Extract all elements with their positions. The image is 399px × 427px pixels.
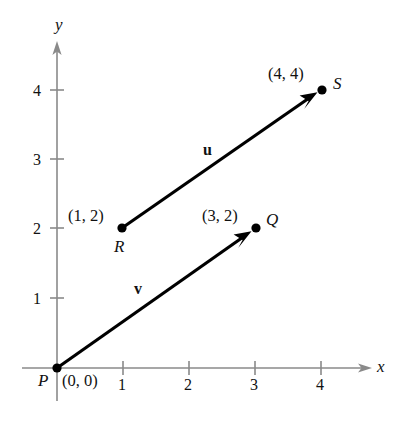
y-axis-label: y [55,16,63,33]
vector-label-v: v [134,281,142,297]
point-label-Q: Q [266,211,278,228]
point-label-R: R [114,238,124,255]
x-tick-label-1: 1 [118,377,126,393]
vector-diagram-figure: y x 1 2 3 4 1 2 3 4 P (0, 0) (1, 2) R (3… [0,0,399,427]
point-dot-R [117,223,126,232]
y-tick-label-2: 2 [33,221,41,237]
point-coord-Q: (3, 2) [202,208,238,225]
coordinate-plane [0,0,399,427]
point-label-S: S [333,75,342,92]
vector-label-u: u [203,142,212,158]
y-tick-label-3: 3 [33,152,41,168]
point-dots [52,85,326,372]
y-tick-label-4: 4 [33,83,41,99]
y-tick-label-1: 1 [33,291,41,307]
x-axis-label: x [377,358,385,375]
point-coord-R: (1, 2) [68,208,104,225]
point-coord-P: (0, 0) [62,373,98,390]
vector-v-arrowhead [234,231,252,248]
x-tick-label-2: 2 [184,377,192,393]
x-tick-label-3: 3 [250,377,258,393]
vector-v [57,231,252,368]
x-tick-label-4: 4 [316,377,324,393]
point-coord-S: (4, 4) [268,66,304,83]
vector-u-arrowhead [300,92,318,109]
point-dot-P [52,363,61,372]
point-dot-Q [251,223,260,232]
point-dot-S [317,85,326,94]
point-label-P: P [38,372,48,389]
vector-v-shaft [57,235,246,368]
